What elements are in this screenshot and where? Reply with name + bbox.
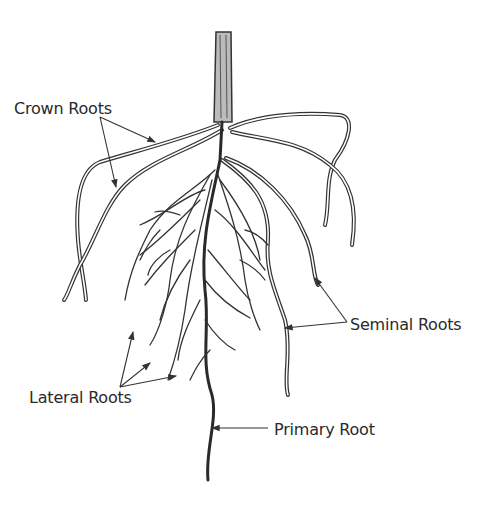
arrow-crown-1 [100,117,155,142]
primary-root [204,122,222,480]
arrow-lateral-3 [120,376,176,387]
label-seminal-roots: Seminal Roots [350,315,462,334]
label-crown-roots: Crown Roots [14,99,112,118]
lateral-roots [125,170,268,380]
annotation-arrows [100,117,347,428]
arrow-seminal-2 [285,322,347,328]
label-primary-root: Primary Root [274,420,375,439]
arrow-crown-2 [100,117,116,187]
seminal-roots [222,158,318,395]
root-system-diagram [0,0,504,510]
stem [214,32,232,122]
label-lateral-roots: Lateral Roots [29,388,132,407]
arrow-seminal-1 [315,278,347,322]
